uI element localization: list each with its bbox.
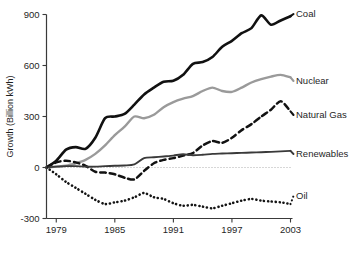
y-tick-label: 300: [24, 111, 40, 122]
x-tick-label: 2003: [280, 224, 301, 235]
line-chart: 9006003000-30019791985199119972003 CoalN…: [0, 0, 351, 259]
label-leader-renewables: [291, 151, 294, 154]
y-axis-title: Growth (Billion kWh): [5, 75, 15, 157]
series-lines: [47, 15, 291, 208]
series-label-nuclear: Nuclear: [296, 75, 329, 86]
label-leader-nuclear: [291, 77, 294, 81]
x-tick-label: 1979: [46, 224, 67, 235]
series-label-natural-gas: Natural Gas: [296, 109, 347, 120]
y-axis-title-text: Growth (Billion kWh): [5, 75, 15, 157]
x-tick-label: 1991: [163, 224, 184, 235]
x-tick-label: 1985: [104, 224, 125, 235]
y-tick-label: 900: [24, 9, 40, 20]
tick-labels: 9006003000-30019791985199119972003: [20, 9, 301, 235]
label-leader-coal: [291, 14, 294, 16]
series-label-coal: Coal: [296, 8, 316, 19]
y-tick-label: 600: [24, 60, 40, 71]
series-line-coal: [47, 15, 291, 167]
series-label-renewables: Renewables: [296, 148, 349, 159]
series-end-labels: CoalNuclearNatural GasRenewablesOil: [291, 8, 349, 204]
y-tick-label: 0: [34, 162, 39, 173]
series-line-oil: [47, 168, 291, 209]
series-label-oil: Oil: [296, 190, 308, 201]
y-tick-label: -300: [20, 213, 39, 224]
x-tick-label: 1997: [221, 224, 242, 235]
label-leader-oil: [291, 196, 294, 204]
axes: [43, 15, 293, 223]
chart-container: 9006003000-30019791985199119972003 CoalN…: [0, 0, 351, 259]
label-leader-natural-gas: [291, 111, 294, 115]
